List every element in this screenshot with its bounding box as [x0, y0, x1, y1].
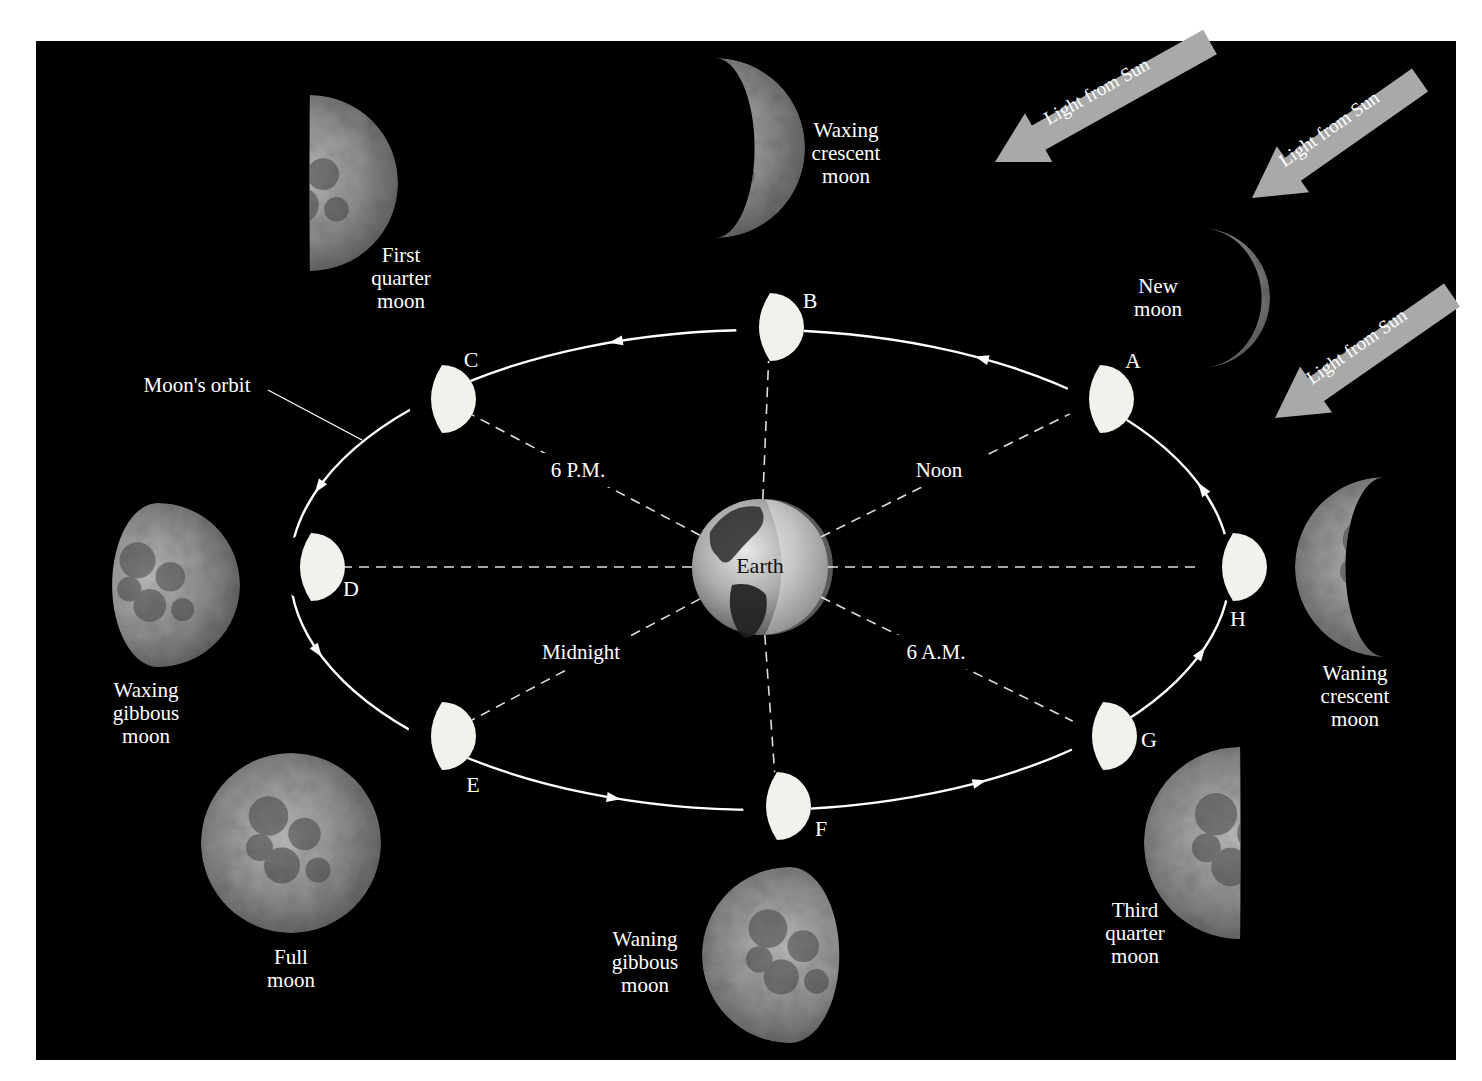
phase-label-first-quarter: quarter	[371, 266, 430, 290]
phase-label-waning-crescent: Waning	[1323, 661, 1388, 685]
position-letter-b: B	[803, 288, 818, 313]
phase-label-waning-crescent: moon	[1331, 707, 1379, 731]
position-letter-c: C	[464, 347, 479, 372]
phase-label-first-quarter: First	[382, 243, 421, 267]
position-letter-a: A	[1125, 348, 1141, 373]
phase-label-new: New	[1138, 274, 1178, 298]
orbit-label: Moon's orbit	[143, 373, 250, 397]
phase-label-third-quarter: moon	[1111, 944, 1159, 968]
phase-label-waning-gibbous: gibbous	[612, 950, 679, 974]
phase-label-third-quarter: quarter	[1105, 921, 1164, 945]
phase-label-waning-crescent: crescent	[1321, 684, 1390, 708]
position-letter-g: G	[1141, 727, 1157, 752]
moon-photo-surface	[201, 753, 381, 933]
time-label-noon: Noon	[916, 458, 963, 482]
phase-label-waxing-gibbous: Waxing	[114, 678, 179, 702]
phase-label-first-quarter: moon	[377, 289, 425, 313]
phase-label-waning-gibbous: moon	[621, 973, 669, 997]
position-letter-d: D	[343, 576, 359, 601]
phase-label-waxing-gibbous: moon	[122, 724, 170, 748]
phase-label-full: Full	[274, 945, 308, 969]
phase-label-waxing-gibbous: gibbous	[113, 701, 180, 725]
time-label-midnight: Midnight	[542, 640, 620, 664]
position-letter-h: H	[1230, 606, 1246, 631]
moon-phases-diagram: Earth ABCDEFGH NewmoonWaxingcrescentmoon…	[0, 0, 1482, 1081]
phase-label-third-quarter: Third	[1112, 898, 1159, 922]
phase-label-waxing-crescent: crescent	[812, 141, 881, 165]
phase-label-waxing-crescent: moon	[822, 164, 870, 188]
phase-label-waning-gibbous: Waning	[613, 927, 678, 951]
phase-label-waxing-crescent: Waxing	[814, 118, 879, 142]
phase-label-new: moon	[1134, 297, 1182, 321]
time-label-six-pm: 6 P.M.	[551, 458, 605, 482]
position-letter-e: E	[466, 772, 479, 797]
phase-moon-full	[201, 753, 381, 933]
phase-label-full: moon	[267, 968, 315, 992]
earth-label: Earth	[736, 553, 784, 578]
time-label-six-am: 6 A.M.	[907, 640, 966, 664]
position-letter-f: F	[815, 816, 827, 841]
